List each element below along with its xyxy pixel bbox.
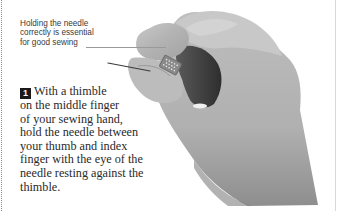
caption-line: for good sewing <box>20 38 130 47</box>
step-text-line: hold the needle between <box>20 126 180 140</box>
step-first-line: 1With a thimble <box>20 85 180 99</box>
step-text-line: of your sewing hand, <box>20 113 180 127</box>
step-text-line: thimble. <box>20 181 180 195</box>
caption-leader-line <box>86 47 166 48</box>
step-text-line: finger with the eye of the <box>20 153 180 167</box>
step-text-line: With a thimble <box>34 84 107 98</box>
step-text-line: needle resting against the <box>20 167 180 181</box>
caption-line: Holding the needle <box>20 19 130 28</box>
caption-line: correctly is essential <box>20 28 130 37</box>
book-page: Holding the needle correctly is essentia… <box>0 0 338 211</box>
instruction-step: 1With a thimble on the middle finger of … <box>20 85 180 194</box>
step-text-line: on the middle finger <box>20 99 180 113</box>
photo-caption: Holding the needle correctly is essentia… <box>20 19 130 47</box>
step-text-line: your thumb and index <box>20 140 180 154</box>
